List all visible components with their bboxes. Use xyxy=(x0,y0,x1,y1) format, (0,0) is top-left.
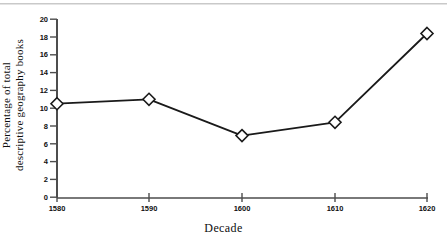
x-tick-label: 1600 xyxy=(222,204,262,213)
y-axis-title: Percentage of total descriptive geograph… xyxy=(0,10,42,200)
x-axis-title: Decade xyxy=(0,221,447,236)
x-tick-label: 1610 xyxy=(315,204,355,213)
x-tick-label: 1620 xyxy=(407,204,447,213)
x-tick-label: 1590 xyxy=(129,204,169,213)
y-axis-title-line-2: descriptive geography books xyxy=(13,10,26,200)
data-point-markers xyxy=(51,28,433,142)
x-tick-label: 1580 xyxy=(37,204,77,213)
data-point-marker xyxy=(143,93,155,105)
chart-page: 20 18 16 14 12 10 8 6 4 2 0 1580 1590 16… xyxy=(0,0,447,245)
y-axis-title-line-1: Percentage of total xyxy=(0,10,13,200)
data-point-marker xyxy=(236,130,248,142)
data-series-line xyxy=(57,34,427,136)
